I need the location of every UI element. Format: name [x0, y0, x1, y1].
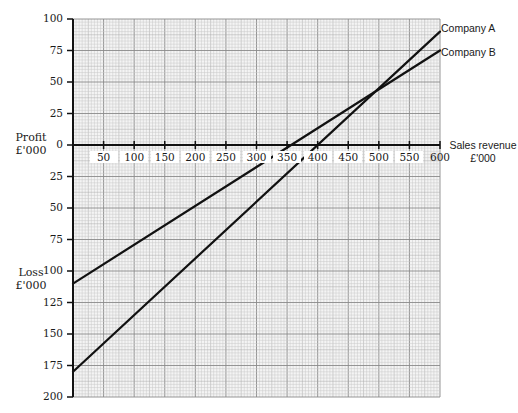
- x-label-line1: Sales revenue: [448, 139, 518, 152]
- x-tick-label: 500: [365, 151, 393, 163]
- y-tick-label: 150: [33, 327, 63, 339]
- loss-label-line2: £'000: [8, 279, 54, 292]
- y-tick-label: 200: [33, 390, 63, 402]
- y-tick-label: 25: [33, 107, 63, 119]
- x-tick-label: 350: [273, 151, 301, 163]
- x-axis-label: Sales revenue £'000: [448, 139, 518, 165]
- series-label-company-b: Company B: [441, 46, 496, 58]
- x-tick-label: 300: [243, 151, 271, 163]
- y-tick-label: 125: [33, 296, 63, 308]
- y-tick-label: 100: [33, 264, 63, 276]
- x-tick-label: 150: [151, 151, 179, 163]
- chart-canvas: [0, 0, 518, 413]
- graph-paper-grid: [73, 19, 440, 397]
- x-tick-label: 450: [334, 151, 362, 163]
- x-tick-label: 100: [120, 151, 148, 163]
- x-tick-label: 50: [90, 151, 118, 163]
- series-label-company-a: Company A: [441, 22, 495, 34]
- y-tick-label: 175: [33, 359, 63, 371]
- x-tick-label: 250: [212, 151, 240, 163]
- x-tick-label: 550: [395, 151, 423, 163]
- x-tick-label: 200: [181, 151, 209, 163]
- y-tick-label: 50: [33, 75, 63, 87]
- x-tick-label: 600: [426, 151, 454, 163]
- y-tick-label: 25: [33, 170, 63, 182]
- y-tick-label: 0: [33, 138, 63, 150]
- y-tick-label: 75: [33, 44, 63, 56]
- y-tick-label: 100: [33, 12, 63, 24]
- x-tick-label: 400: [304, 151, 332, 163]
- y-tick-label: 50: [33, 201, 63, 213]
- y-tick-label: 75: [33, 233, 63, 245]
- x-label-line2: £'000: [448, 152, 518, 165]
